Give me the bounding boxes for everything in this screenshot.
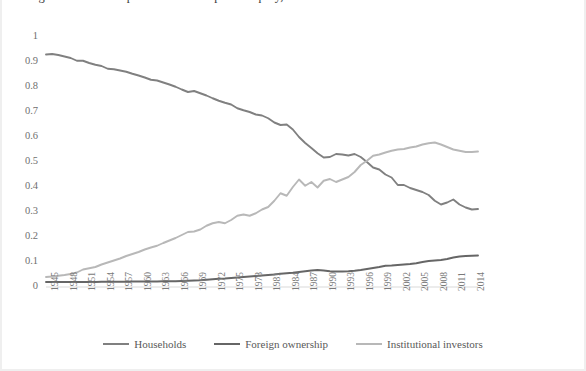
legend-swatch-icon [356, 343, 382, 345]
x-tick-label: 1975 [235, 272, 245, 291]
x-tick-label: 1954 [106, 272, 116, 291]
x-tick-label: 1987 [309, 272, 319, 291]
x-tick-label: 1948 [69, 272, 79, 291]
y-tick-label: 0.8 [8, 80, 38, 91]
series-lines [46, 54, 478, 282]
y-tick-label: 0 [8, 280, 38, 291]
legend-label: Foreign ownership [245, 338, 328, 350]
x-tick-label: 1978 [254, 272, 264, 291]
legend-swatch-icon [103, 343, 129, 345]
y-tick-label: 0.9 [8, 55, 38, 66]
x-tick-label: 2008 [439, 272, 449, 291]
legend-foreign-ownership[interactable]: Foreign ownership [214, 338, 328, 350]
x-tick-label: 2002 [402, 272, 412, 291]
y-tick-label: 0.7 [8, 105, 38, 116]
x-tick-label: 1966 [180, 272, 190, 291]
x-tick-label: 1990 [328, 272, 338, 291]
series-line-households [46, 54, 478, 210]
y-tick-label: 0.6 [8, 130, 38, 141]
chart-legend: HouseholdsForeign ownershipInstitutional… [0, 334, 586, 354]
y-tick-label: 0.5 [8, 155, 38, 166]
legend-households[interactable]: Households [103, 338, 186, 350]
x-tick-label: 1945 [50, 272, 60, 291]
x-tick-label: 1984 [291, 272, 301, 291]
y-tick-label: 1 [8, 30, 38, 41]
x-tick-label: 1996 [365, 272, 375, 291]
y-tick-label: 0.4 [8, 180, 38, 191]
legend-swatch-icon [214, 343, 240, 345]
x-tick-label: 1963 [161, 272, 171, 291]
figure-container: Figure 1. Ownership structure of corpora… [0, 0, 586, 371]
x-tick-label: 1993 [346, 272, 356, 291]
x-tick-label: 1999 [383, 272, 393, 291]
y-tick-label: 0.3 [8, 205, 38, 216]
x-tick-label: 2011 [457, 272, 467, 291]
x-tick-label: 1969 [198, 272, 208, 291]
x-tick-label: 1951 [87, 272, 97, 291]
series-line-institutional-investors [46, 143, 478, 278]
x-tick-label: 1981 [272, 272, 282, 291]
x-tick-label: 1960 [143, 272, 153, 291]
legend-label: Households [134, 338, 186, 350]
x-tick-label: 2014 [476, 272, 486, 291]
chart-svg [0, 0, 586, 371]
plot-area: 10.90.80.70.60.50.40.30.20.10 1945194819… [0, 0, 586, 371]
x-tick-label: 1972 [217, 272, 227, 291]
y-tick-label: 0.2 [8, 230, 38, 241]
legend-label: Institutional investors [387, 338, 483, 350]
x-tick-label: 2005 [420, 272, 430, 291]
legend-institutional-investors[interactable]: Institutional investors [356, 338, 483, 350]
x-tick-label: 1957 [124, 272, 134, 291]
y-tick-label: 0.1 [8, 255, 38, 266]
